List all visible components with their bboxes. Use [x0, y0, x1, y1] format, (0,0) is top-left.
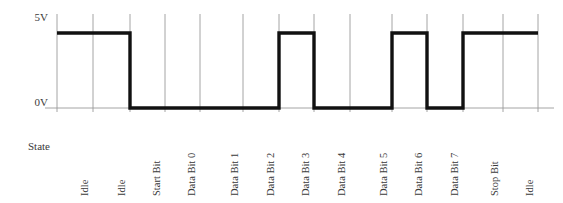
state-label: Data Bit 3	[300, 153, 311, 196]
y-axis-label-group: 5V0V	[35, 11, 49, 108]
state-label-group: IdleIdleStart BitData Bit 0Data Bit 1Dat…	[79, 152, 535, 196]
state-label: Data Bit 0	[186, 153, 197, 196]
state-label: Data Bit 4	[336, 152, 347, 196]
state-label: Data Bit 2	[265, 153, 276, 196]
state-row-label: State	[28, 140, 50, 152]
state-label: Data Bit 5	[378, 153, 389, 196]
state-label: Data Bit 7	[449, 153, 460, 196]
state-label: Start Bit	[151, 161, 162, 196]
state-label: Stop Bit	[489, 161, 500, 196]
state-label: Data Bit 6	[413, 153, 424, 196]
state-row-label-group: State	[28, 140, 50, 152]
waveform-svg: 5V0V State IdleIdleStart BitData Bit 0Da…	[0, 0, 563, 203]
state-label: Idle	[524, 179, 535, 196]
state-label: Data Bit 1	[229, 153, 240, 196]
state-label: Idle	[116, 179, 127, 196]
signal-trace	[57, 33, 538, 108]
state-label: Idle	[79, 179, 90, 196]
y-axis-tick-label: 5V	[35, 11, 49, 23]
y-axis-tick-label: 0V	[35, 96, 49, 108]
uart-timing-diagram: 5V0V State IdleIdleStart BitData Bit 0Da…	[0, 0, 563, 203]
